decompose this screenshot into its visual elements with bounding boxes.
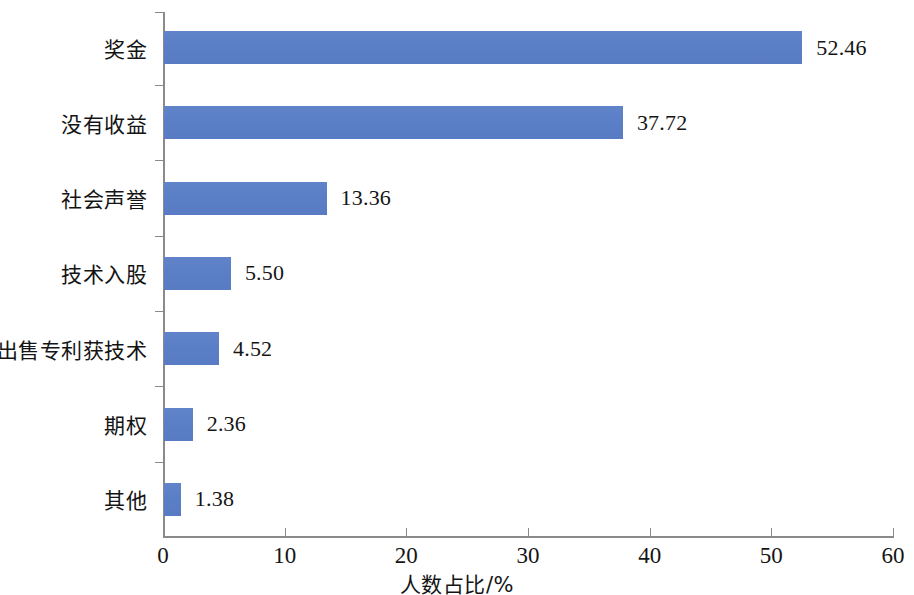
bar-value-label: 13.36 xyxy=(341,185,392,211)
bar-row: 2.36 xyxy=(164,408,894,441)
y-axis-tick xyxy=(155,311,164,312)
bar-chart: 奖金52.46没有收益37.72社会声誉13.36技术入股5.50出售专利获技术… xyxy=(0,0,914,595)
bar xyxy=(164,332,219,365)
bar xyxy=(164,408,193,441)
bar-value-label: 5.50 xyxy=(245,260,284,286)
x-axis-tick-label: 20 xyxy=(395,543,418,569)
bar-row: 1.38 xyxy=(164,483,894,516)
bar-row: 37.72 xyxy=(164,106,894,139)
bar xyxy=(164,106,623,139)
y-axis-tick xyxy=(155,160,164,161)
x-axis-tick-label: 0 xyxy=(157,543,169,569)
bar xyxy=(164,257,231,290)
bar-row: 4.52 xyxy=(164,332,894,365)
x-axis-tick-label: 10 xyxy=(273,543,296,569)
x-axis-tick-label: 60 xyxy=(882,543,905,569)
y-axis-tick xyxy=(155,12,164,13)
category-label: 社会声誉 xyxy=(0,182,155,215)
category-label: 出售专利获技术 xyxy=(0,332,155,365)
x-axis-tick-label: 40 xyxy=(638,543,661,569)
bar xyxy=(164,31,802,64)
bar-row: 52.46 xyxy=(164,31,894,64)
x-axis-tick xyxy=(285,528,286,537)
bar-row: 13.36 xyxy=(164,182,894,215)
x-axis-tick-label: 50 xyxy=(760,543,783,569)
y-axis-tick xyxy=(155,236,164,237)
bar-value-label: 52.46 xyxy=(816,35,867,61)
category-label: 奖金 xyxy=(0,31,155,64)
bar-row: 5.50 xyxy=(164,257,894,290)
x-axis-tick xyxy=(163,528,164,537)
x-axis-tick xyxy=(650,528,651,537)
x-axis-tick xyxy=(771,528,772,537)
x-axis-tick-label: 30 xyxy=(517,543,540,569)
x-axis-title: 人数占比/% xyxy=(0,568,914,595)
bar-value-label: 1.38 xyxy=(195,486,234,512)
y-axis-tick xyxy=(155,85,164,86)
y-axis-tick xyxy=(155,462,164,463)
category-label: 没有收益 xyxy=(0,106,155,139)
bar-value-label: 37.72 xyxy=(637,110,688,136)
x-axis-tick xyxy=(528,528,529,537)
category-label: 技术入股 xyxy=(0,257,155,290)
x-axis-tick xyxy=(406,528,407,537)
category-label: 期权 xyxy=(0,408,155,441)
bar xyxy=(164,182,327,215)
x-axis-tick xyxy=(893,528,894,537)
bar xyxy=(164,483,181,516)
category-label: 其他 xyxy=(0,483,155,516)
y-axis-tick xyxy=(155,386,164,387)
bar-value-label: 4.52 xyxy=(233,336,272,362)
bar-value-label: 2.36 xyxy=(207,411,246,437)
